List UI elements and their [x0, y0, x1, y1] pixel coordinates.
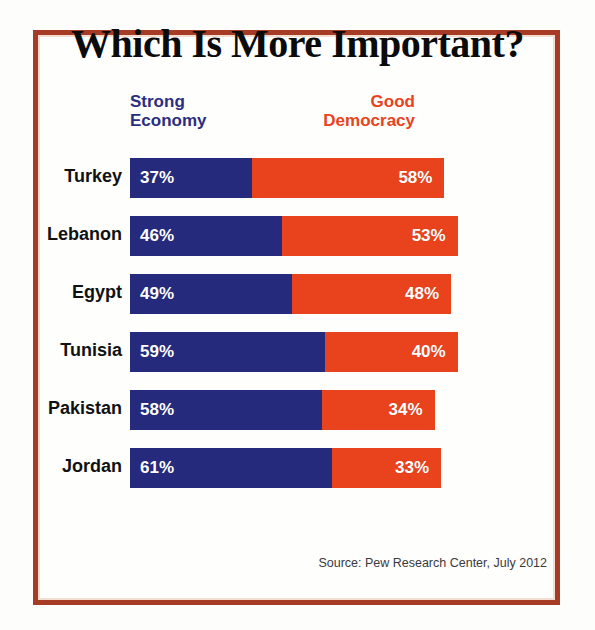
stacked-bar: 49%48% [130, 274, 451, 314]
bar-segment-good-democracy: 58% [252, 158, 444, 198]
bar-row: Tunisia59%40% [0, 329, 595, 387]
bar-value-strong-economy: 46% [140, 226, 174, 246]
bar-segment-strong-economy: 61% [130, 448, 332, 488]
bar-segment-strong-economy: 37% [130, 158, 252, 198]
source-note: Source: Pew Research Center, July 2012 [318, 556, 547, 570]
bar-segment-strong-economy: 59% [130, 332, 325, 372]
bar-segment-good-democracy: 53% [282, 216, 457, 256]
bar-row-label: Egypt [0, 282, 122, 303]
stacked-bar: 61%33% [130, 448, 441, 488]
stacked-bar: 37%58% [130, 158, 444, 198]
bar-segment-strong-economy: 58% [130, 390, 322, 430]
bar-value-good-democracy: 40% [412, 342, 446, 362]
bar-segment-strong-economy: 46% [130, 216, 282, 256]
bar-segment-good-democracy: 40% [325, 332, 457, 372]
bar-value-strong-economy: 61% [140, 458, 174, 478]
bar-row: Turkey37%58% [0, 155, 595, 213]
page-title: Which Is More Important? [0, 20, 595, 67]
bar-row: Lebanon46%53% [0, 213, 595, 271]
legend-item-good-democracy: Good Democracy [215, 92, 415, 130]
bar-segment-good-democracy: 34% [322, 390, 435, 430]
legend-democracy-line2: Democracy [215, 111, 415, 130]
legend-democracy-line1: Good [215, 92, 415, 111]
bar-value-good-democracy: 58% [398, 168, 432, 188]
legend-economy-line2: Economy [130, 111, 207, 130]
bar-rows: Turkey37%58%Lebanon46%53%Egypt49%48%Tuni… [0, 155, 595, 503]
bar-row: Egypt49%48% [0, 271, 595, 329]
bar-value-strong-economy: 58% [140, 400, 174, 420]
bar-row-label: Turkey [0, 166, 122, 187]
bar-value-good-democracy: 34% [388, 400, 422, 420]
bar-value-strong-economy: 49% [140, 284, 174, 304]
bar-row-label: Lebanon [0, 224, 122, 245]
bar-row-label: Jordan [0, 456, 122, 477]
bar-row-label: Tunisia [0, 340, 122, 361]
bar-row: Pakistan58%34% [0, 387, 595, 445]
bar-segment-good-democracy: 48% [292, 274, 451, 314]
bar-segment-strong-economy: 49% [130, 274, 292, 314]
bar-value-good-democracy: 48% [405, 284, 439, 304]
legend-item-strong-economy: Strong Economy [130, 92, 207, 130]
bar-value-good-democracy: 33% [395, 458, 429, 478]
bar-value-good-democracy: 53% [412, 226, 446, 246]
stacked-bar: 59%40% [130, 332, 458, 372]
bar-value-strong-economy: 59% [140, 342, 174, 362]
chart-figure: Which Is More Important? Strong Economy … [0, 0, 595, 630]
bar-value-strong-economy: 37% [140, 168, 174, 188]
bar-row: Jordan61%33% [0, 445, 595, 503]
legend-economy-line1: Strong [130, 92, 207, 111]
bar-segment-good-democracy: 33% [332, 448, 441, 488]
stacked-bar: 58%34% [130, 390, 435, 430]
bar-row-label: Pakistan [0, 398, 122, 419]
chart-legend: Strong Economy Good Democracy [0, 92, 595, 138]
stacked-bar: 46%53% [130, 216, 458, 256]
